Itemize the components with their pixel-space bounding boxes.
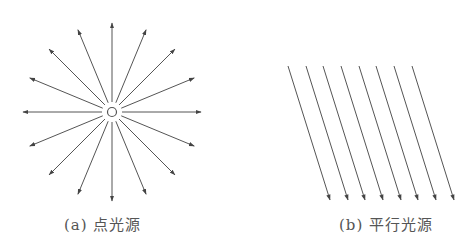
light-ray-arrow <box>119 119 175 175</box>
light-source-diagram <box>0 0 458 243</box>
point-source-marker <box>108 108 117 117</box>
light-ray-arrow <box>78 30 108 103</box>
light-ray-arrow <box>121 116 194 146</box>
point-light-source-diagram <box>23 23 201 201</box>
parallel-ray-arrow <box>359 66 401 200</box>
light-ray-arrow <box>121 78 194 108</box>
light-ray-arrow <box>30 78 103 108</box>
light-ray-arrow <box>116 121 146 194</box>
light-ray-arrow <box>78 121 108 194</box>
parallel-ray-arrow <box>288 66 330 200</box>
parallel-ray-arrow <box>341 66 383 200</box>
light-ray-arrow <box>30 116 103 146</box>
light-ray-arrow <box>49 119 105 175</box>
light-ray-arrow <box>49 49 105 105</box>
parallel-ray-arrow <box>376 66 418 200</box>
light-ray-arrow <box>116 30 146 103</box>
parallel-ray-arrow <box>394 66 436 200</box>
caption-point-light-source: (a) 点光源 <box>64 213 141 234</box>
caption-parallel-light-source: (b) 平行光源 <box>339 213 433 234</box>
parallel-ray-arrow <box>323 66 365 200</box>
parallel-ray-arrow <box>412 66 454 200</box>
light-ray-arrow <box>119 49 175 105</box>
parallel-light-source-diagram <box>288 66 454 200</box>
parallel-ray-arrow <box>306 66 348 200</box>
